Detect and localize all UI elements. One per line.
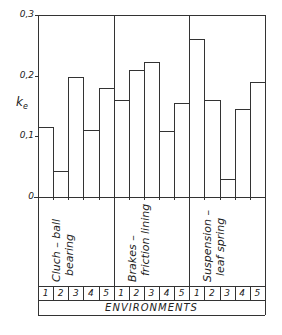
- x-tick: [99, 197, 100, 200]
- bar: [189, 39, 205, 197]
- env-number: 3: [144, 288, 159, 298]
- x-tick: [38, 197, 39, 200]
- x-tick: [83, 197, 84, 200]
- group-label: Suspension –leaf spring: [201, 210, 227, 282]
- env-row-bottom: [38, 300, 265, 301]
- env-row-top: [38, 286, 265, 287]
- env-number: 2: [204, 288, 219, 298]
- bar: [235, 109, 251, 197]
- env-number: 2: [53, 288, 68, 298]
- x-tick: [250, 197, 251, 200]
- y-tick-mark: [35, 76, 38, 77]
- group-label-line2: leaf spring: [214, 210, 227, 282]
- bar: [204, 100, 220, 197]
- group-label: Brakes –friction lining: [126, 204, 152, 282]
- y-tick-label: 0,1: [10, 130, 34, 140]
- x-tick: [114, 197, 115, 200]
- env-number: 5: [250, 288, 265, 298]
- env-number: 4: [235, 288, 250, 298]
- bar: [250, 82, 266, 197]
- group-label: Cluch – ballbearing: [50, 219, 76, 282]
- x-tick: [174, 197, 175, 200]
- env-number: 1: [189, 288, 204, 298]
- y-tick-mark: [35, 15, 38, 16]
- x-axis-title: ENVIRONMENTS: [38, 302, 265, 313]
- x-tick: [68, 197, 69, 200]
- x-tick: [129, 197, 130, 200]
- x-tick: [189, 197, 190, 200]
- x-tick: [144, 197, 145, 200]
- x-tick: [53, 197, 54, 200]
- y-tick-label: 0: [10, 191, 34, 201]
- frame-top: [38, 15, 265, 16]
- y-tick-label: 0,2: [10, 70, 34, 80]
- bar: [114, 100, 130, 197]
- y-label-main: k: [16, 95, 23, 109]
- group-label-line2: friction lining: [139, 204, 152, 282]
- env-number: 3: [220, 288, 235, 298]
- env-number: 3: [68, 288, 83, 298]
- bar: [159, 131, 175, 197]
- group-label-line1: Cluch – ball: [50, 219, 63, 282]
- env-number: 4: [83, 288, 98, 298]
- x-tick: [159, 197, 160, 200]
- group-label-line2: bearing: [63, 219, 76, 282]
- env-number: 1: [38, 288, 53, 298]
- env-number: 4: [159, 288, 174, 298]
- bar: [53, 171, 69, 197]
- bar: [38, 127, 54, 197]
- env-number: 2: [129, 288, 144, 298]
- bar: [174, 103, 190, 197]
- bar: [220, 179, 236, 197]
- bar: [68, 77, 84, 197]
- x-tick: [235, 197, 236, 200]
- bar: [144, 62, 160, 197]
- group-label-line1: Brakes –: [126, 204, 139, 282]
- x-tick: [204, 197, 205, 200]
- env-number: 5: [99, 288, 114, 298]
- bar: [99, 88, 115, 197]
- y-tick-label: 0,3: [10, 9, 34, 19]
- env-number: 1: [114, 288, 129, 298]
- group-label-line1: Suspension –: [201, 210, 214, 282]
- x-tick: [220, 197, 221, 200]
- y-axis-label: ke: [16, 95, 28, 111]
- frame-bottom: [38, 315, 265, 316]
- y-label-sub: e: [23, 102, 28, 111]
- bar: [129, 70, 145, 197]
- bar: [83, 130, 99, 197]
- env-number: 5: [174, 288, 189, 298]
